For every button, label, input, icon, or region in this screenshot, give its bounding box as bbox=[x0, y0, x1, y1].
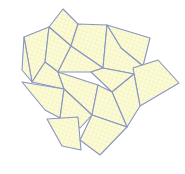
polygon-tile-p14 bbox=[22, 82, 64, 118]
polygon-diagram bbox=[0, 0, 185, 174]
polygon-layer bbox=[22, 9, 179, 155]
polygon-tile-p17 bbox=[47, 117, 81, 150]
polygon-tile-p11 bbox=[133, 60, 179, 106]
